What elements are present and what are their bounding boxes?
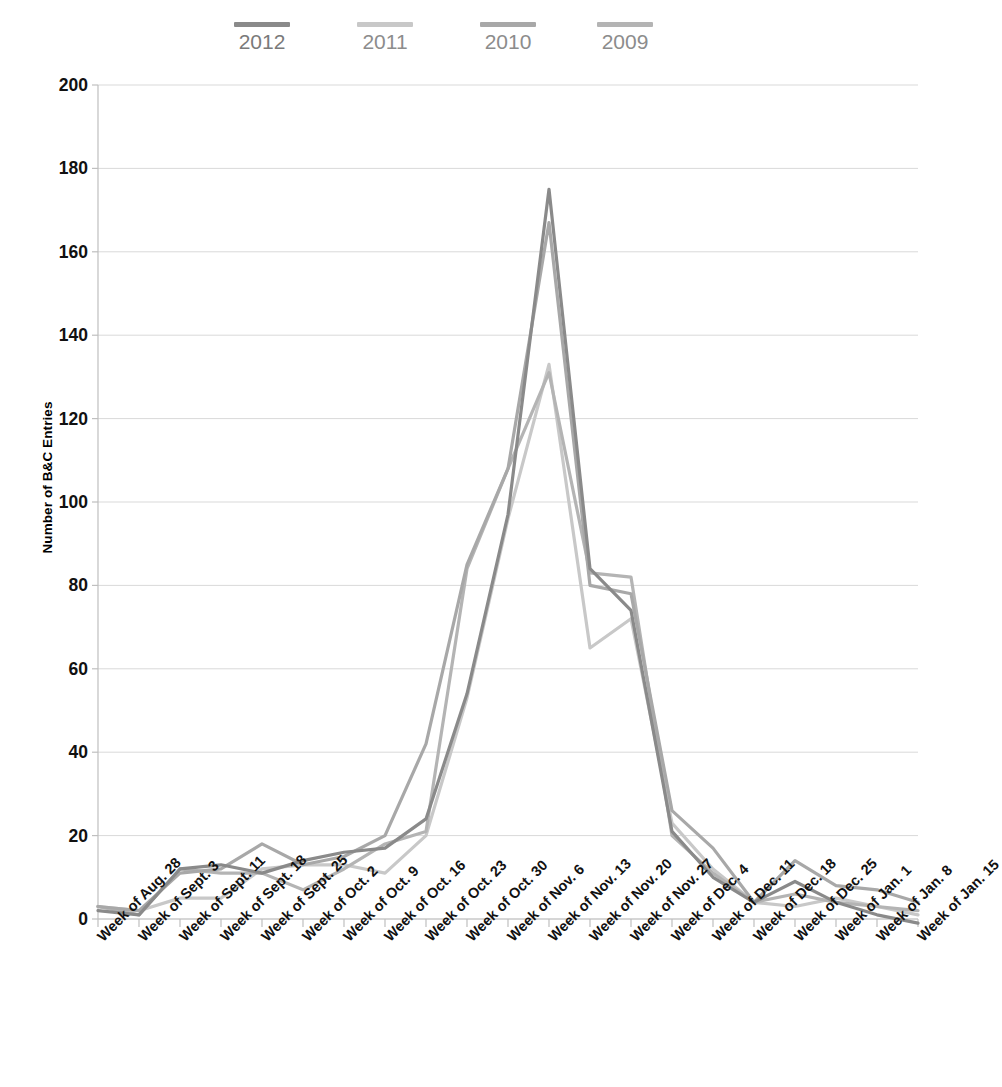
page-corner-mark [14, 1067, 30, 1079]
series-line-2010[interactable] [98, 223, 918, 911]
series-line-2012[interactable] [98, 189, 918, 923]
series-line-2009[interactable] [98, 373, 918, 915]
series-line-2011[interactable] [98, 364, 918, 914]
